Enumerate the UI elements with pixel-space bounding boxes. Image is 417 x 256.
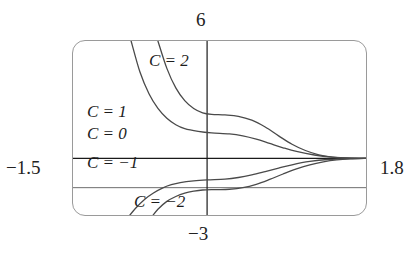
chart-figure: 6 −3 −1.5 1.8 C = 2 C = 1 C = 0 C = −1 C…: [0, 0, 417, 256]
curve-label-c2: C = 2: [149, 52, 189, 69]
window-ymax-label: 6: [196, 10, 206, 29]
curve-label-c0: C = 0: [87, 125, 127, 142]
curve-label-c1: C = 1: [87, 103, 127, 120]
window-xmin-label: −1.5: [6, 158, 40, 177]
curve-label-cm1: C = −1: [87, 154, 138, 171]
curve-label-cm2: C = −2: [134, 193, 185, 210]
window-xmax-label: 1.8: [380, 158, 404, 177]
plot-frame: C = 2 C = 1 C = 0 C = −1 C = −2: [72, 40, 367, 216]
window-ymin-label: −3: [188, 224, 208, 243]
